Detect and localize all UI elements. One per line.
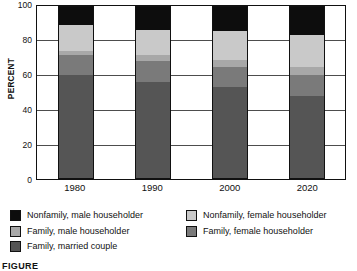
bar-segment <box>135 82 171 179</box>
bar-segment <box>289 6 325 35</box>
stacked-bar-1990 <box>135 6 171 179</box>
y-tick-60: 60 <box>8 71 32 80</box>
x-tick-1980: 1980 <box>57 182 93 200</box>
legend-item-family-married-couple: Family, married couple <box>10 239 186 255</box>
bar-segment <box>58 25 94 51</box>
stacked-bar-2020 <box>289 6 325 179</box>
bar-segment <box>135 61 171 82</box>
bar-segment <box>58 55 94 75</box>
y-tick-40: 40 <box>8 106 32 115</box>
legend-item-family-female-householder: Family, female householder <box>186 224 357 240</box>
legend-item-nonfamily-female-householder: Nonfamily, female householder <box>186 208 357 224</box>
bar-segment <box>58 75 94 179</box>
legend-column-left: Nonfamily, male householder Family, male… <box>10 208 186 255</box>
legend-swatch-icon <box>186 226 197 237</box>
chart-legend: Nonfamily, male householder Family, male… <box>10 208 357 258</box>
legend-label: Family, married couple <box>27 242 117 251</box>
chart-plot-area: PERCENT 100 80 60 40 20 0 1980 1990 2000… <box>0 0 357 206</box>
x-tick-1990: 1990 <box>134 182 170 200</box>
x-tick-2000: 2000 <box>212 182 248 200</box>
legend-swatch-icon <box>10 241 21 252</box>
bar-segment <box>135 30 171 55</box>
stacked-bars-group <box>37 6 345 179</box>
legend-item-nonfamily-male-householder: Nonfamily, male householder <box>10 208 186 224</box>
bar-segment <box>289 35 325 67</box>
y-tick-80: 80 <box>8 36 32 45</box>
bar-segment <box>212 67 248 88</box>
legend-label: Family, female householder <box>203 227 313 236</box>
stacked-bar-1980 <box>58 6 94 179</box>
bar-segment <box>289 75 325 96</box>
bar-segment <box>212 31 248 60</box>
stacked-bar-2000 <box>212 6 248 179</box>
plot-axes-frame <box>36 5 346 180</box>
y-tick-20: 20 <box>8 141 32 150</box>
bar-segment <box>289 67 325 75</box>
bar-segment <box>58 6 94 25</box>
y-tick-0: 0 <box>8 176 32 185</box>
bar-segment <box>289 96 325 179</box>
legend-label: Nonfamily, male householder <box>27 211 143 220</box>
y-tick-100: 100 <box>8 1 32 10</box>
legend-label: Family, male householder <box>27 227 129 236</box>
bar-segment <box>212 6 248 31</box>
bar-segment <box>212 60 248 67</box>
legend-column-right: Nonfamily, female householder Family, fe… <box>186 208 357 239</box>
legend-item-family-male-householder: Family, male householder <box>10 224 186 240</box>
figure-caption: FIGURE <box>2 261 38 271</box>
legend-swatch-icon <box>10 210 21 221</box>
x-axis-tick-labels: 1980 1990 2000 2020 <box>36 182 346 200</box>
legend-label: Nonfamily, female householder <box>203 211 326 220</box>
y-axis-tick-labels: 100 80 60 40 20 0 <box>0 0 32 206</box>
x-tick-2020: 2020 <box>289 182 325 200</box>
bar-segment <box>135 6 171 30</box>
bar-segment <box>212 87 248 179</box>
figure-container: PERCENT 100 80 60 40 20 0 1980 1990 2000… <box>0 0 357 271</box>
legend-swatch-icon <box>186 210 197 221</box>
legend-swatch-icon <box>10 226 21 237</box>
